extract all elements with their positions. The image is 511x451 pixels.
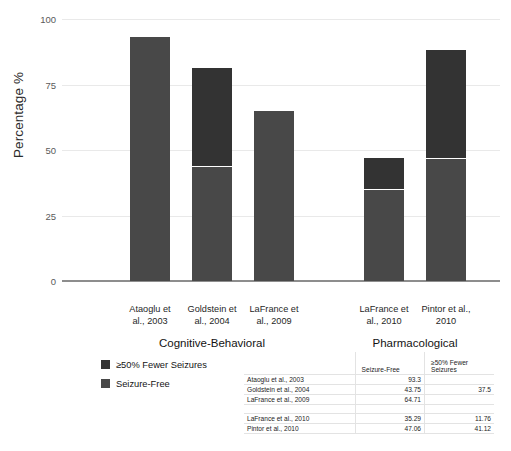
table-cell-seizure-free: 93.3 [355,374,424,384]
table-header-row: Seizure-Free ≥50% Fewer Seizures [244,352,494,374]
x-tick-line1: Goldstein et [187,304,236,314]
bar-segment-seizure-free [364,189,404,281]
plot-area: 0255075100 Ataoglu etal., 2003Goldstein … [62,19,500,281]
table-row: Pintor et al., 201047.0641.12 [244,423,494,433]
table-row: LaFrance et al., 200964.71 [244,394,494,404]
y-axis-title: Percentage % [11,55,33,175]
stacked-bar-chart: Percentage % 0255075100 Ataoglu etal., 2… [0,0,511,345]
table-cell-fewer-seizures: 41.12 [425,423,494,433]
x-tick-label-3: LaFrance etal., 2009 [238,304,310,327]
table-row: Goldstein et al., 200443.7537.5 [244,384,494,394]
y-tick-label-0: 0 [51,276,56,287]
bar-segment-seizure-free [192,166,232,281]
table-cell-study: Ataoglu et al., 2003 [244,374,355,384]
y-tick-label-75: 75 [45,79,56,90]
group-label-pharm: Pharmacological [325,337,505,349]
spacer-cell-fewer [425,404,494,413]
spacer-cell-free [355,404,424,413]
y-tick-label-100: 100 [40,14,56,25]
legend-item-2: Seizure-Free [101,376,207,391]
bar-3 [254,111,294,281]
table-spacer-row [244,404,494,413]
x-tick-line2: 2010 [410,316,482,328]
bar-segment-seizure-free [426,158,466,281]
table-cell-study: LaFrance et al., 2009 [244,394,355,404]
header-fewer-seizures-line1: ≥50% Fewer [431,359,468,366]
table-cell-study: Pintor et al., 2010 [244,423,355,433]
x-tick-line1: LaFrance et [249,304,298,314]
y-tick-label-25: 25 [45,210,56,221]
header-fewer-seizures-line2: Seizures [431,366,457,373]
bar-segment-fewer-seizures [192,68,232,166]
table-row: Ataoglu et al., 200393.3 [244,374,494,384]
spacer-cell-study [244,404,355,413]
data-table: Seizure-Free ≥50% Fewer Seizures Ataoglu… [244,352,494,434]
bar-1 [130,37,170,281]
x-tick-line1: Ataoglu et [129,304,170,314]
legend-swatch-icon [101,360,110,369]
table-cell-seizure-free: 35.29 [355,413,424,423]
table-cell-seizure-free: 43.75 [355,384,424,394]
table-cell-fewer-seizures [425,394,494,404]
table-cell-seizure-free: 64.71 [355,394,424,404]
bar-segment-seizure-free [130,37,170,281]
bar-4 [364,158,404,281]
table-cell-fewer-seizures [425,374,494,384]
bar-segment-seizure-free [254,111,294,281]
legend-item-1: ≥50% Fewer Seizures [101,357,207,372]
chart-legend: ≥50% Fewer SeizuresSeizure-Free [101,357,207,395]
x-tick-label-5: Pintor et al.,2010 [410,304,482,327]
y-tick-label-50: 50 [45,145,56,156]
bar-segment-fewer-seizures [426,50,466,158]
table-cell-seizure-free: 47.06 [355,423,424,433]
header-seizure-free: Seizure-Free [355,352,424,374]
legend-label: Seizure-Free [116,379,170,389]
x-tick-line1: Pintor et al., [421,304,470,314]
group-label-cbt: Cognitive-Behavioral [122,337,302,349]
legend-label: ≥50% Fewer Seizures [116,360,207,370]
table-cell-study: Goldstein et al., 2004 [244,384,355,394]
bar-2 [192,68,232,281]
x-tick-line1: LaFrance et [359,304,408,314]
table-cell-fewer-seizures: 37.5 [425,384,494,394]
legend-swatch-icon [101,379,110,388]
chart-page: Percentage % 0255075100 Ataoglu etal., 2… [0,0,511,451]
bar-segment-fewer-seizures [364,158,404,189]
table-body: Ataoglu et al., 200393.3Goldstein et al.… [244,374,494,433]
table-cell-fewer-seizures: 11.76 [425,413,494,423]
header-fewer-seizures: ≥50% Fewer Seizures [425,352,494,374]
table-cell-study: LaFrance et al., 2010 [244,413,355,423]
table-row: LaFrance et al., 201035.2911.76 [244,413,494,423]
table-header: Seizure-Free ≥50% Fewer Seizures [244,352,494,374]
header-study [244,352,355,374]
bar-5 [426,50,466,281]
gridline-100 [62,19,500,20]
x-tick-line2: al., 2009 [238,316,310,328]
